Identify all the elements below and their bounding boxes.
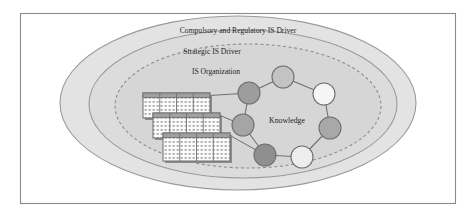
label-knowledge: Knowledge [269,116,305,125]
knowledge-node-left [232,114,254,136]
knowledge-node-top [272,66,294,88]
label-compulsory-regulatory-is-driver: Compulsory and Regulatory IS Driver [180,26,297,35]
knowledge-node-bottom-right [291,146,313,168]
label-strategic-is-driver: Strategic IS Driver [183,47,241,56]
knowledge-node-top-left [238,82,260,104]
nested-ellipse-layers [60,16,416,190]
data-table [163,133,232,163]
knowledge-node-bottom-left [254,144,276,166]
knowledge-node-top-right [313,83,335,105]
label-is-organization: IS Organization [192,67,240,76]
knowledge-node-right [319,117,341,139]
figure-canvas: Compulsory and Regulatory IS DriverStrat… [0,0,476,215]
